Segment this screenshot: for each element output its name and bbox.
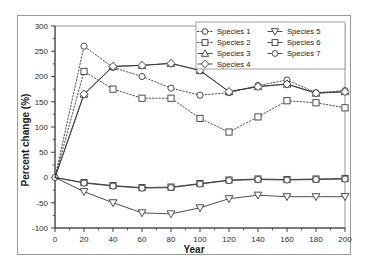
series-marker bbox=[110, 86, 116, 92]
legend-label: Species 1 bbox=[217, 27, 250, 36]
series-marker bbox=[109, 200, 117, 207]
x-tick-label: 160 bbox=[280, 235, 294, 244]
series-marker bbox=[81, 43, 87, 49]
percent-change-line-chart: Percent change (%) Year -100-50050100150… bbox=[0, 0, 369, 272]
series-marker bbox=[313, 176, 319, 182]
series-marker bbox=[255, 114, 261, 120]
series-marker bbox=[139, 185, 145, 191]
series-line bbox=[55, 71, 345, 177]
series-marker bbox=[342, 176, 348, 182]
x-tick-label: 20 bbox=[80, 235, 89, 244]
chart-legend: Species 1Species 2Species 3Species 4Spec… bbox=[196, 22, 345, 69]
series-marker bbox=[167, 211, 175, 218]
legend-marker bbox=[272, 40, 278, 46]
x-tick-label: 40 bbox=[109, 235, 118, 244]
y-tick-label: -50 bbox=[36, 199, 48, 208]
series-marker bbox=[110, 183, 116, 189]
x-tick-label: 0 bbox=[53, 235, 58, 244]
chart-figure: Percent change (%) Year -100-50050100150… bbox=[0, 0, 369, 272]
y-tick-label: 200 bbox=[35, 72, 49, 81]
x-tick-label: 180 bbox=[309, 235, 323, 244]
series-marker bbox=[313, 100, 319, 106]
series-marker bbox=[284, 98, 290, 104]
series-2 bbox=[55, 68, 348, 177]
y-tick-label: 250 bbox=[35, 47, 49, 56]
legend-item-5[interactable]: Species 5 bbox=[268, 27, 321, 36]
legend-label: Species 4 bbox=[217, 60, 250, 69]
y-axis-title: Percent change (%) bbox=[20, 94, 31, 187]
y-axis-tick-labels: -100-50050100150200250300 bbox=[32, 22, 49, 233]
series-marker bbox=[197, 115, 203, 121]
legend-item-4[interactable]: Species 4 bbox=[198, 60, 251, 69]
series-marker bbox=[168, 185, 174, 191]
series-7 bbox=[55, 176, 348, 191]
y-tick-label: 100 bbox=[35, 123, 49, 132]
x-tick-label: 120 bbox=[222, 235, 236, 244]
legend-label: Species 7 bbox=[287, 49, 320, 58]
series-marker bbox=[81, 68, 87, 74]
x-tick-label: 200 bbox=[338, 235, 352, 244]
legend-label: Species 5 bbox=[287, 27, 320, 36]
series-marker bbox=[139, 73, 145, 79]
series-marker bbox=[81, 180, 87, 186]
y-tick-label: 300 bbox=[35, 22, 49, 31]
y-tick-label: 150 bbox=[35, 98, 49, 107]
x-axis-title: Year bbox=[183, 244, 204, 255]
legend-label: Species 3 bbox=[217, 49, 250, 58]
y-tick-label: 0 bbox=[44, 173, 49, 182]
legend-marker bbox=[202, 40, 208, 46]
legend-label: Species 2 bbox=[217, 38, 250, 47]
y-tick-label: 50 bbox=[39, 148, 48, 157]
series-marker bbox=[255, 176, 261, 182]
y-tick-label: -100 bbox=[32, 224, 49, 233]
x-tick-label: 60 bbox=[138, 235, 147, 244]
legend-marker bbox=[272, 51, 278, 57]
legend-label: Species 6 bbox=[287, 38, 320, 47]
series-marker bbox=[226, 177, 232, 183]
series-marker bbox=[139, 95, 145, 101]
series-marker bbox=[284, 177, 290, 183]
x-tick-label: 100 bbox=[193, 235, 207, 244]
series-marker bbox=[197, 92, 203, 98]
series-marker bbox=[197, 181, 203, 187]
x-tick-label: 140 bbox=[251, 235, 265, 244]
x-axis-tick-labels: 020406080100120140160180200 bbox=[53, 235, 352, 244]
series-marker bbox=[342, 105, 348, 111]
series-marker bbox=[168, 85, 174, 91]
series-marker bbox=[80, 189, 88, 196]
legend-marker bbox=[202, 29, 208, 35]
series-marker bbox=[168, 95, 174, 101]
series-marker bbox=[226, 129, 232, 135]
x-tick-label: 80 bbox=[167, 235, 176, 244]
plot-container: Percent change (%) Year -100-50050100150… bbox=[0, 0, 369, 272]
